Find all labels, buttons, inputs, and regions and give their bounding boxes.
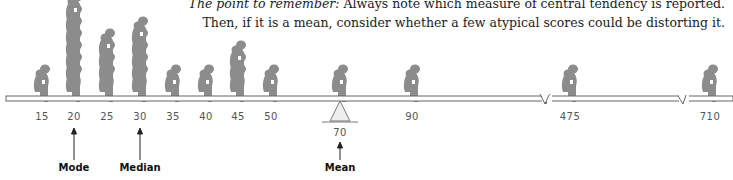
tick-label: 45 (231, 111, 245, 122)
tick-label: 15 (35, 111, 49, 122)
tick-label: 30 (133, 111, 147, 122)
tick-label: 70 (333, 127, 347, 138)
mean-label: Mean (325, 162, 356, 173)
tick-label: 710 (700, 111, 721, 122)
fulcrum (322, 101, 358, 122)
seesaw-diagram (0, 0, 733, 180)
arrows (72, 128, 343, 160)
mode-label: Mode (59, 162, 90, 173)
median-label: Median (119, 162, 160, 173)
tick-label: 475 (560, 111, 581, 122)
tick-label: 90 (405, 111, 419, 122)
people-figures (34, 0, 718, 102)
tick-label: 25 (100, 111, 114, 122)
tick-label: 35 (166, 111, 180, 122)
tick-label: 50 (264, 111, 278, 122)
tick-label: 40 (199, 111, 213, 122)
tick-label: 20 (67, 111, 81, 122)
beam (6, 94, 733, 104)
